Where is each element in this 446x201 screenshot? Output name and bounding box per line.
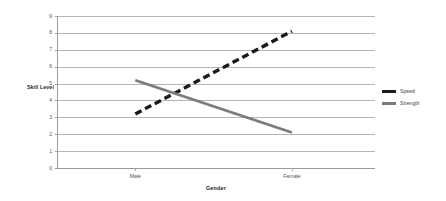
- legend-swatch-strength-icon: [382, 102, 396, 105]
- gridline: [57, 151, 375, 152]
- gridline: [57, 134, 375, 135]
- line-chart: Skill Level 0123456789 MaleFemale Gender…: [0, 0, 446, 201]
- gridline: [57, 168, 375, 169]
- gridline: [57, 100, 375, 101]
- x-tick-mark: [135, 168, 136, 171]
- y-tick-label: 0: [40, 166, 52, 171]
- gridline: [57, 33, 375, 34]
- y-tick-label: 7: [40, 47, 52, 52]
- legend-item-speed: Speed: [382, 86, 444, 98]
- y-tick-label: 6: [40, 64, 52, 69]
- legend-label-speed: Speed: [400, 87, 415, 95]
- y-tick-label: 3: [40, 115, 52, 120]
- gridline: [57, 67, 375, 68]
- legend-label-strength: Strength: [400, 99, 420, 107]
- plot-area: [57, 16, 375, 168]
- gridline: [57, 16, 375, 17]
- x-axis-title: Gender: [57, 185, 375, 192]
- y-tick-label: 5: [40, 81, 52, 86]
- gridline: [57, 84, 375, 85]
- y-tick-label: 4: [40, 98, 52, 103]
- gridline: [57, 117, 375, 118]
- y-tick-label: 2: [40, 132, 52, 137]
- y-tick-label: 8: [40, 30, 52, 35]
- gridline: [57, 50, 375, 51]
- x-tick-label: Female: [267, 173, 317, 179]
- x-tick-mark: [292, 168, 293, 171]
- x-tick-label: Male: [110, 173, 160, 179]
- y-axis-line: [57, 16, 58, 168]
- legend-swatch-speed-icon: [382, 90, 396, 93]
- legend-item-strength: Strength: [382, 98, 444, 110]
- chart-legend: Speed Strength: [382, 86, 444, 110]
- y-tick-label: 1: [40, 149, 52, 154]
- y-tick-label: 9: [40, 14, 52, 19]
